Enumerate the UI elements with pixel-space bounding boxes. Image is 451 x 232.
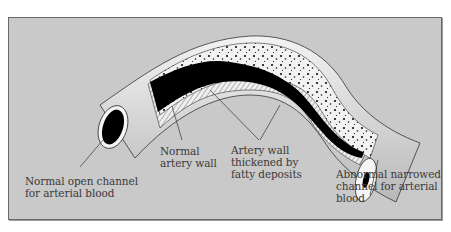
leader-normal-open-channel: [80, 140, 103, 167]
label-thickened-wall: Artery wall thickened by fatty deposits: [231, 144, 302, 180]
leader-thickened-wall-a: [210, 90, 259, 140]
leader-thickened-wall-b: [260, 105, 280, 140]
label-normal-open-channel: Normal open channel for arterial blood: [25, 175, 138, 199]
label-narrowed-channel: Abnormal narrowed channel for arterial b…: [336, 168, 441, 204]
label-normal-artery-wall: Normal artery wall: [160, 145, 217, 169]
